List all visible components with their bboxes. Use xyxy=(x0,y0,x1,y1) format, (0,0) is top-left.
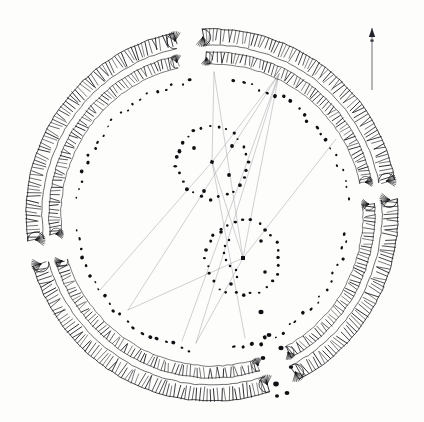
stone-marker xyxy=(345,180,347,182)
ditch-hachure xyxy=(165,59,168,70)
central-features-layer xyxy=(192,144,267,286)
stone-marker xyxy=(86,153,90,157)
bank-hachure xyxy=(109,362,117,370)
bank-hachure xyxy=(384,225,398,226)
bank-hachure xyxy=(125,51,133,62)
ditch-hachure xyxy=(61,273,70,277)
bank-hachure xyxy=(155,38,156,50)
stone-marker xyxy=(341,257,345,261)
ditch-hachure xyxy=(148,66,152,75)
bank-hachure xyxy=(82,81,92,89)
outlying-stone-0 xyxy=(258,310,263,314)
survey-line-ne-node-to-sw-terminal xyxy=(182,74,279,341)
stone-marker xyxy=(80,255,85,260)
survey-line-obelisk-to-e-terminal xyxy=(243,139,336,258)
inner-stone-marker-north-inner-circle xyxy=(187,136,189,138)
ditch-hachure xyxy=(259,60,260,68)
z-feature-stone-4 xyxy=(229,265,232,268)
bank-hachure xyxy=(384,230,397,233)
bank-hachure xyxy=(349,318,359,329)
bank-hachure xyxy=(383,233,397,236)
bank-hachure xyxy=(174,384,176,397)
ditch-hachure xyxy=(225,368,227,377)
stone-marker xyxy=(131,326,136,330)
ditch-hachure xyxy=(331,310,338,317)
bank-hachure xyxy=(28,185,39,187)
north-arrow-head xyxy=(369,28,375,37)
ditch-hachure xyxy=(365,206,374,207)
stone-marker xyxy=(335,164,338,168)
stone-marker xyxy=(293,320,297,324)
bank-hachure xyxy=(269,39,272,49)
stone-marker xyxy=(251,83,254,85)
stone-marker xyxy=(171,340,176,345)
outlying-stone-5 xyxy=(273,382,279,387)
ditch-hachure xyxy=(360,252,370,255)
ditch-hachure xyxy=(59,159,68,160)
stone-marker xyxy=(300,310,305,315)
stone-marker xyxy=(96,140,100,144)
cove-satellite-stone-3 xyxy=(202,189,206,193)
inner-stone-marker-south-inner-circle xyxy=(209,239,212,242)
ditch-hachure xyxy=(321,324,326,332)
ditch-hachure xyxy=(194,368,196,377)
stone-marker xyxy=(342,169,345,172)
ditch-hachure xyxy=(84,114,91,120)
bank-hachure xyxy=(112,59,118,68)
bank-hachure xyxy=(203,387,205,401)
stone-marker xyxy=(258,89,261,92)
ditch-crest-2 xyxy=(56,263,260,379)
stone-marker xyxy=(288,323,291,326)
ditch-hachure xyxy=(62,276,70,281)
cove-satellite-stone-1 xyxy=(230,144,234,148)
ditch-hachure xyxy=(50,225,61,227)
ditch-hachure xyxy=(86,312,93,318)
inner-stone-marker-north-inner-circle xyxy=(178,172,181,175)
bank-crest-0 xyxy=(202,29,394,180)
ditch-hachure xyxy=(93,320,98,326)
ditch-hachure xyxy=(211,370,212,378)
ditch-hachure xyxy=(49,222,59,224)
ditch-hachure xyxy=(134,71,139,80)
bank-hachure xyxy=(148,40,152,53)
ditch-hachure xyxy=(168,58,170,69)
ditch-hachure xyxy=(217,367,219,378)
bank-hachure xyxy=(102,354,110,365)
ditch-hachure xyxy=(329,112,338,117)
bank-hachure xyxy=(181,388,185,399)
inner-stone-marker-north-inner-circle xyxy=(182,181,185,183)
ditch-hachure xyxy=(175,365,179,374)
ditch-hachure xyxy=(154,63,158,71)
ditch-hachure xyxy=(337,301,345,309)
bank-hachure xyxy=(100,353,108,362)
bank-hachure xyxy=(26,215,40,216)
ditch-hachure xyxy=(75,126,85,130)
stone-marker xyxy=(302,112,307,117)
bank-hachure xyxy=(159,36,161,50)
stone-marker xyxy=(231,79,235,83)
bank-hachure xyxy=(367,133,379,140)
bank-hachure xyxy=(26,200,38,203)
ditch-hachure xyxy=(190,365,191,376)
stone-marker xyxy=(272,93,277,98)
survey-line-ne-node-to-s-terminal xyxy=(196,74,279,343)
ditch-crest-0 xyxy=(206,52,371,181)
bank-hachure xyxy=(38,276,52,281)
ditch-hachure xyxy=(332,115,340,120)
stone-marker xyxy=(170,83,173,86)
ditch-hachure xyxy=(352,275,362,279)
inner-stone-marker-south-inner-circle xyxy=(276,241,279,244)
cove-satellite-stone-2 xyxy=(227,173,231,177)
bank-hachure xyxy=(315,65,322,74)
ditch-hachure xyxy=(179,364,182,375)
ditch-hachure xyxy=(212,52,214,60)
stone-marker xyxy=(156,90,160,94)
ditch-hachure xyxy=(350,282,359,286)
ditch-hachure xyxy=(287,74,294,83)
bank-hachure xyxy=(352,105,361,113)
bank-hachure xyxy=(378,261,390,265)
inner-stone-marker-south-inner-circle xyxy=(259,222,262,225)
inner-stone-marker-south-inner-circle xyxy=(242,293,246,297)
obelisk-marker xyxy=(241,256,245,260)
ditch-hachure xyxy=(54,173,62,175)
